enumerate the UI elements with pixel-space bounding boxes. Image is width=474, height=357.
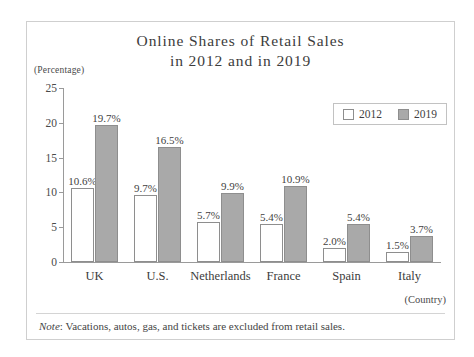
y-tick-label: 10: [46, 186, 58, 198]
bar-2012-netherlands[interactable]: 5.7%: [197, 222, 220, 262]
bar-2012-france[interactable]: 5.4%: [260, 224, 283, 262]
bar-value-label: 19.7%: [92, 112, 120, 124]
y-tick-label: 0: [51, 256, 57, 268]
y-tick-label: 15: [46, 152, 58, 164]
note-text: Vacations, autos, gas, and tickets are e…: [65, 320, 345, 332]
bar-2012-uk[interactable]: 10.6%: [71, 188, 94, 262]
note-keyword: Note: [39, 320, 60, 332]
y-tick-mark: [59, 262, 63, 263]
plot-area: 0510152025 10.6%19.7%UK9.7%16.5%U.S.5.7%…: [63, 88, 441, 262]
bar-group: 10.6%19.7%UK: [63, 88, 126, 262]
x-axis-title: (Country): [405, 294, 446, 305]
chart-note: Note: Vacations, autos, gas, and tickets…: [39, 320, 444, 332]
x-axis-line: [63, 262, 441, 263]
bar-2012-italy[interactable]: 1.5%: [386, 252, 409, 262]
note-divider: [36, 313, 445, 314]
bar-group: 5.7%9.9%Netherlands: [189, 88, 252, 262]
bar-2012-us[interactable]: 9.7%: [134, 195, 157, 263]
bar-group: 9.7%16.5%U.S.: [126, 88, 189, 262]
bar-group: 5.4%10.9%France: [252, 88, 315, 262]
bar-value-label: 5.4%: [260, 211, 283, 223]
bar-2019-netherlands[interactable]: 9.9%: [221, 193, 244, 262]
chart-figure: Online Shares of Retail Sales in 2012 an…: [26, 21, 455, 340]
x-axis-category-label: Netherlands: [190, 269, 250, 284]
bar-value-label: 5.7%: [197, 209, 220, 221]
bar-value-label: 10.9%: [281, 173, 309, 185]
y-tick-label: 5: [51, 221, 57, 233]
bar-value-label: 9.7%: [134, 182, 157, 194]
x-axis-category-label: Italy: [398, 269, 421, 284]
y-axis-unit-label: (Percentage): [34, 65, 84, 75]
chart-title: Online Shares of Retail Sales in 2012 an…: [27, 31, 454, 72]
x-axis-category-label: France: [266, 269, 300, 284]
note-separator: :: [60, 320, 63, 332]
bar-value-label: 2.0%: [323, 235, 346, 247]
bar-value-label: 3.7%: [410, 223, 433, 235]
bar-group: 1.5%3.7%Italy: [378, 88, 441, 262]
y-tick-label: 25: [46, 82, 58, 94]
bar-2019-france[interactable]: 10.9%: [284, 186, 307, 262]
bar-2019-spain[interactable]: 5.4%: [347, 224, 370, 262]
y-tick-label: 20: [46, 117, 58, 129]
x-axis-category-label: UK: [85, 269, 103, 284]
bar-value-label: 10.6%: [68, 175, 96, 187]
bar-2019-uk[interactable]: 19.7%: [95, 125, 118, 262]
bar-2019-italy[interactable]: 3.7%: [410, 236, 433, 262]
bar-value-label: 1.5%: [386, 239, 409, 251]
bar-group: 2.0%5.4%Spain: [315, 88, 378, 262]
bar-value-label: 9.9%: [221, 180, 244, 192]
bar-value-label: 5.4%: [347, 211, 370, 223]
bar-2019-us[interactable]: 16.5%: [158, 147, 181, 262]
chart-title-line-1: Online Shares of Retail Sales: [27, 31, 454, 51]
chart-title-line-2: in 2012 and in 2019: [27, 51, 454, 71]
x-axis-category-label: U.S.: [146, 269, 168, 284]
x-axis-category-label: Spain: [332, 269, 360, 284]
bar-2012-spain[interactable]: 2.0%: [323, 248, 346, 262]
bar-value-label: 16.5%: [155, 134, 183, 146]
